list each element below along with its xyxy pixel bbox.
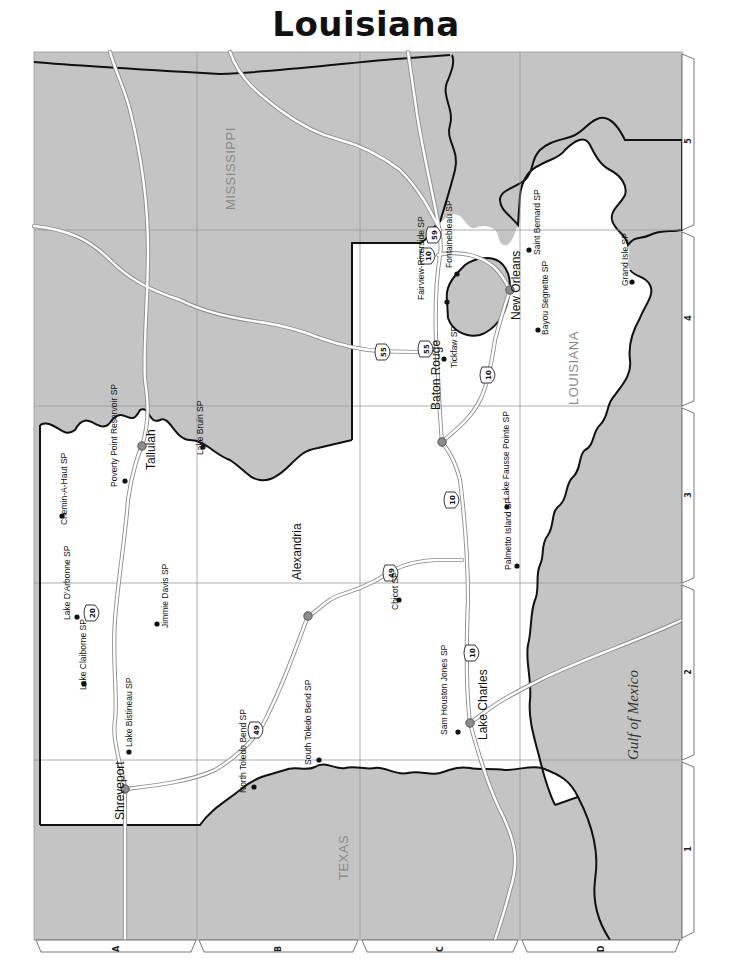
park-marker[interactable] [74, 614, 79, 619]
park-label: Lake Bruin SP [195, 400, 205, 455]
park-marker[interactable] [444, 299, 449, 304]
city-label: Baton Rouge [429, 340, 443, 410]
park-label: Lake Fausse Pointe SP [501, 411, 511, 500]
park-label: Tickfaw SP [449, 325, 459, 368]
city-marker[interactable] [466, 719, 474, 727]
park-label: Chicot SP [390, 572, 400, 610]
park-label: Jimmie Davis SP [160, 563, 170, 628]
louisiana-map: 20494910101010555559 Chemin-A-Haut SPPov… [0, 0, 732, 980]
highway-shield-49: 49 [248, 722, 263, 738]
park-label: South Toledo Bend SP [303, 679, 313, 765]
highway-number: 49 [253, 725, 261, 735]
highway-shield-55: 55 [375, 344, 390, 360]
park-label: Lake Claiborne SP [78, 619, 88, 690]
row-tabs: 5 4 3 2 1 [682, 54, 694, 938]
highway-number: 10 [425, 251, 433, 261]
highway-number: 10 [449, 495, 457, 505]
highway-number: 55 [380, 347, 388, 357]
highway-shield-59: 59 [426, 227, 441, 243]
city-marker[interactable] [438, 438, 446, 446]
park-label: Bayou Segnette SP [540, 260, 550, 335]
park-label: Poverty Point Reservoir SP [109, 384, 119, 487]
label-louisiana: LOUISIANA [566, 331, 581, 405]
park-marker[interactable] [629, 279, 634, 284]
park-marker[interactable] [504, 504, 509, 509]
row-label-4: 4 [684, 315, 693, 321]
park-label: Lake Bistineau SP [124, 677, 134, 747]
park-marker[interactable] [154, 621, 159, 626]
column-label-d: D [597, 945, 606, 952]
city-label: Shreveport [113, 761, 127, 820]
city-label: New Orleans [509, 251, 523, 320]
column-tabs: A B C D [36, 940, 680, 952]
column-label-c: C [436, 946, 445, 952]
park-marker[interactable] [454, 271, 459, 276]
row-label-5: 5 [684, 138, 693, 144]
park-marker[interactable] [126, 749, 131, 754]
highway-shield-10: 10 [464, 645, 479, 661]
park-label: Sam Houston Jones SP [439, 644, 449, 735]
highway-shield-10: 10 [480, 367, 495, 383]
label-mississippi: MISSISSIPPI [223, 127, 238, 210]
park-marker[interactable] [122, 478, 127, 483]
row-label-1: 1 [684, 846, 693, 852]
city-marker[interactable] [304, 612, 312, 620]
park-marker[interactable] [251, 784, 256, 789]
park-marker[interactable] [526, 247, 531, 252]
city-label: Alexandria [290, 523, 304, 580]
city-label: Tallulah [144, 429, 158, 470]
column-label-a: A [112, 945, 121, 952]
highway-shield-20: 20 [84, 605, 99, 621]
park-label: Chemin-A-Haut SP [59, 452, 69, 525]
park-label: Grand Isle SP [620, 233, 630, 286]
label-gulf-of-mexico: Gulf of Mexico [625, 670, 641, 760]
column-label-b: B [274, 946, 283, 952]
highway-shield-10: 10 [444, 492, 459, 508]
park-marker[interactable] [455, 729, 460, 734]
highway-number: 10 [485, 370, 493, 380]
park-label: North Toledo Bend SP [238, 709, 248, 793]
park-label: Fairview-Riverside SP [416, 216, 426, 300]
row-label-3: 3 [684, 492, 693, 498]
park-label: Fontainebleau SP [444, 200, 454, 268]
highway-number: 10 [469, 648, 477, 658]
park-label: Saint Bernard SP [532, 189, 542, 255]
highway-number: 20 [89, 608, 97, 618]
park-label: Lake D'Arbonne SP [62, 545, 72, 620]
row-label-2: 2 [684, 669, 693, 675]
park-marker[interactable] [316, 757, 321, 762]
highway-number: 59 [431, 230, 439, 240]
label-texas: TEXAS [336, 835, 351, 880]
park-marker[interactable] [514, 563, 519, 568]
city-label: Lake Charles [476, 669, 490, 740]
